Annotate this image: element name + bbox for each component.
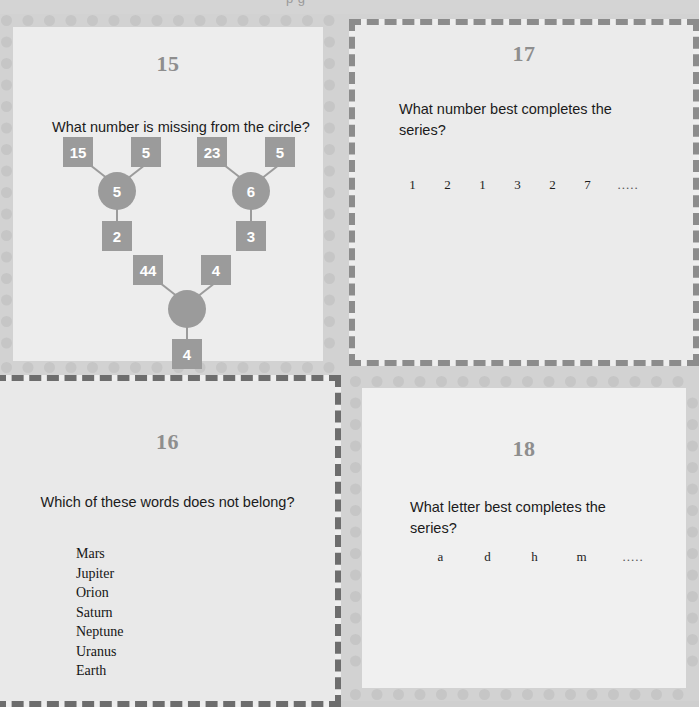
node-circle-right: 6 (232, 172, 270, 210)
letter-series-ellipsis: ..... (605, 549, 661, 565)
node-box-right-topleft: 23 (197, 137, 227, 167)
word-item-0: Mars (76, 544, 123, 564)
node-box-left-topright: 5 (131, 137, 161, 167)
letter-item-0: a (417, 549, 464, 565)
panel-18-series: a d h m ..... (417, 549, 661, 565)
node-box-bottom-bottom: 4 (172, 339, 202, 369)
node-circle-bottom-missing (168, 290, 206, 328)
node-box-right-topright: 5 (265, 137, 295, 167)
puzzle-panel-15: 15 What number is missing from the circl… (0, 14, 336, 374)
letter-item-2: h (511, 549, 558, 565)
panel-18-number: 18 (362, 436, 686, 462)
page-header-strip: p g (0, 0, 699, 14)
word-item-6: Earth (76, 661, 123, 681)
panel-15-content: 15 What number is missing from the circl… (13, 27, 323, 361)
panel-17-number: 17 (355, 41, 693, 67)
panel-17-content: 17 What number best completes the series… (355, 25, 693, 360)
series-item-4: 2 (535, 177, 570, 193)
series-item-3: 3 (500, 177, 535, 193)
word-item-4: Neptune (76, 622, 123, 642)
panel-17-series: 1 2 1 3 2 7 ..... (395, 177, 651, 193)
word-item-1: Jupiter (76, 564, 123, 584)
panel-15-diagram: 15 5 5 2 23 5 6 3 44 4 4 (13, 27, 323, 361)
node-box-left-topleft: 15 (63, 137, 93, 167)
word-item-5: Uranus (76, 642, 123, 662)
panel-16-content: 16 Which of these words does not belong?… (0, 381, 335, 701)
series-item-2: 1 (465, 177, 500, 193)
panel-17-question: What number best completes the series? (399, 99, 624, 141)
node-box-left-bottom: 2 (102, 221, 132, 251)
node-box-bottom-topleft: 44 (133, 255, 163, 285)
panel-18-question: What letter best completes the series? (410, 497, 625, 539)
panel-16-word-list: Mars Jupiter Orion Saturn Neptune Uranus… (76, 544, 123, 681)
node-box-bottom-topright: 4 (201, 255, 231, 285)
panel-16-number: 16 (0, 429, 335, 455)
series-item-5: 7 (570, 177, 605, 193)
panel-16-question: Which of these words does not belong? (10, 492, 325, 513)
node-circle-left: 5 (98, 172, 136, 210)
letter-item-1: d (464, 549, 511, 565)
series-item-1: 2 (430, 177, 465, 193)
panel-18-content: 18 What letter best completes the series… (362, 388, 686, 688)
puzzle-panel-18: 18 What letter best completes the series… (349, 375, 699, 701)
word-item-3: Saturn (76, 603, 123, 623)
page-header-text: p g (286, 0, 306, 6)
letter-item-3: m (558, 549, 605, 565)
puzzle-panel-16: 16 Which of these words does not belong?… (0, 375, 341, 707)
word-item-2: Orion (76, 583, 123, 603)
puzzle-panel-17: 17 What number best completes the series… (349, 19, 699, 366)
series-ellipsis: ..... (605, 177, 651, 193)
series-item-0: 1 (395, 177, 430, 193)
node-box-right-bottom: 3 (236, 221, 266, 251)
